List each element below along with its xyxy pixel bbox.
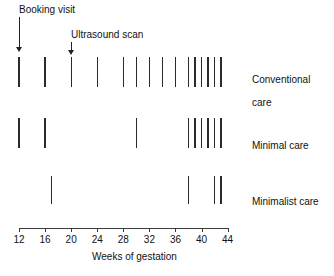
x-axis-tick <box>19 228 20 232</box>
annotation-ultrasound-scan-arrow-head <box>68 50 74 55</box>
visit-tick <box>44 118 45 148</box>
x-axis-tick <box>175 228 176 232</box>
schedule-row-label-line1: Minimalist care <box>252 196 319 207</box>
visit-tick <box>207 57 208 87</box>
visit-tick <box>51 176 52 204</box>
x-axis-tick <box>97 228 98 232</box>
x-axis-tick <box>45 228 46 232</box>
annotation-booking-visit-arrow-head <box>16 47 22 52</box>
visit-tick <box>194 118 195 148</box>
x-axis-tick <box>228 228 229 232</box>
visit-tick <box>175 57 176 87</box>
visit-tick <box>18 118 19 148</box>
visit-tick <box>188 57 189 87</box>
x-axis-tick-label: 44 <box>222 234 233 245</box>
visit-tick <box>220 176 221 204</box>
schedule-row-label: Minimal care <box>252 128 309 151</box>
x-axis-tick <box>202 228 203 232</box>
annotation-ultrasound-scan-arrow-shaft <box>71 42 72 50</box>
visit-tick <box>220 57 221 87</box>
schedule-row-label-line2: care <box>252 97 271 108</box>
visit-tick <box>188 176 189 204</box>
visit-tick <box>194 57 195 87</box>
visit-tick <box>136 118 137 148</box>
x-axis-tick <box>149 228 150 232</box>
x-axis-tick <box>71 228 72 232</box>
visit-tick <box>71 57 72 87</box>
visit-tick <box>44 57 45 87</box>
x-axis-tick-label: 32 <box>144 234 155 245</box>
x-axis-tick-label: 36 <box>170 234 181 245</box>
visit-tick <box>207 118 208 148</box>
visit-tick <box>214 57 215 87</box>
visit-tick <box>123 57 124 87</box>
schedule-row-label: Minimalist care <box>252 184 319 207</box>
visit-tick <box>18 57 19 87</box>
x-axis-tick <box>123 228 124 232</box>
x-axis-tick-label: 20 <box>66 234 77 245</box>
visit-tick <box>214 118 215 148</box>
visit-tick <box>97 57 98 87</box>
x-axis-tick-label: 16 <box>40 234 51 245</box>
visit-tick <box>149 57 150 87</box>
x-axis-tick-label: 40 <box>196 234 207 245</box>
schedule-row-label-line1: Conventional <box>252 74 310 85</box>
x-axis: 121620242832364044 Weeks of gestation <box>0 228 334 276</box>
annotation-ultrasound-scan-label: Ultrasound scan <box>71 29 143 40</box>
x-axis-title: Weeks of gestation <box>92 251 177 262</box>
visit-tick <box>188 118 189 148</box>
visit-tick <box>201 57 202 87</box>
schedule-row-minimal-care: Minimal care <box>0 118 334 148</box>
visit-tick <box>220 118 221 148</box>
schedule-row-conventional-care: Conventional care <box>0 57 334 87</box>
visit-tick <box>136 57 137 87</box>
antenatal-care-schedule-figure: Booking visit Ultrasound scan Convention… <box>0 0 334 276</box>
annotation-booking-visit-label: Booking visit <box>19 4 75 15</box>
visit-tick <box>201 118 202 148</box>
schedule-row-label: Conventional care <box>252 62 310 108</box>
x-axis-tick-label: 28 <box>118 234 129 245</box>
visit-tick <box>162 57 163 87</box>
schedule-row-label-line1: Minimal care <box>252 140 309 151</box>
x-axis-tick-label: 24 <box>92 234 103 245</box>
annotation-booking-visit-arrow-shaft <box>19 17 20 47</box>
schedule-row-minimalist-care: Minimalist care <box>0 176 334 204</box>
visit-tick <box>214 176 215 204</box>
x-axis-tick-label: 12 <box>13 234 24 245</box>
